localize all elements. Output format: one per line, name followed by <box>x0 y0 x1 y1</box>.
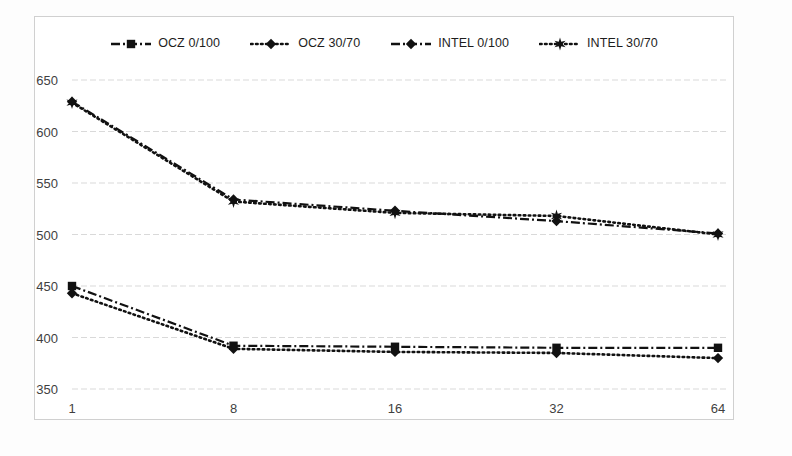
y-axis-tick-label: 600 <box>36 125 58 140</box>
chart-canvas: 350400450500550600650 18163264 <box>0 0 792 456</box>
chart-data-point-star-marker <box>228 195 239 208</box>
y-axis-tick-label: 550 <box>36 176 58 191</box>
y-axis-tick-label: 500 <box>36 228 58 243</box>
chart-data-point-diamond-marker <box>713 353 723 363</box>
x-axis-tick-label: 8 <box>230 401 237 416</box>
chart-series <box>67 288 723 363</box>
y-axis-tick-label: 650 <box>36 73 58 88</box>
chart-series-layer <box>66 96 723 363</box>
chart-series <box>66 96 723 241</box>
x-axis-tick-label: 1 <box>68 401 75 416</box>
chart-figure: OCZ 0/100 OCZ 30/70 INTEL 0/100 INTEL 30… <box>0 0 792 456</box>
x-axis-tick-label: 64 <box>711 401 725 416</box>
x-axis-tick-label: 32 <box>549 401 563 416</box>
chart-data-point-square-marker <box>714 344 722 352</box>
y-axis-tick-label: 350 <box>36 382 58 397</box>
chart-y-axis-labels: 350400450500550600650 <box>36 73 58 397</box>
chart-series <box>68 282 722 352</box>
x-axis-tick-label: 16 <box>388 401 402 416</box>
chart-series-line <box>72 286 718 348</box>
y-axis-tick-label: 450 <box>36 279 58 294</box>
chart-x-axis-labels: 18163264 <box>68 401 725 416</box>
y-axis-tick-label: 400 <box>36 331 58 346</box>
